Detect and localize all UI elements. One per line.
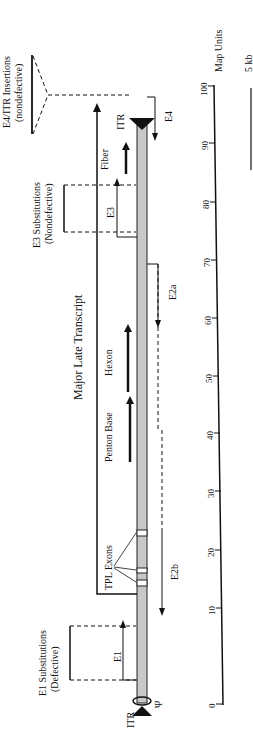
e2a-arrow [147,264,161,430]
e4-insertion-subtitle: (nondefective) [13,64,25,122]
tpl-exon-2 [137,568,147,573]
tick-20: 20 [206,548,216,558]
itr-right-label: ITR [115,114,126,130]
major-late-transcript-arrow [93,103,137,594]
penton-base-label: Penton Base [103,412,114,462]
e1-label: E1 [112,651,123,662]
map-units-label: Map Units [213,29,224,72]
genome-bar [137,125,147,703]
itr-right-icon [129,118,155,130]
e1-arrow [120,620,137,680]
e3-substitution-bracket [64,185,136,232]
hexon-label: Hexon [103,349,114,376]
e2b-label: E2b [169,564,180,580]
major-late-transcript-label: Major Late Transcript [71,294,85,400]
tick-40: 40 [205,431,215,441]
tpl-exon-1 [137,580,147,586]
fiber-label: Fiber [99,148,110,170]
e2b-arrow [159,430,165,616]
fiber-arrow [122,142,130,174]
adenovirus-genome-map: ITR ITR Ψ E1 Substitutions (Defective) E… [0,0,253,736]
e1-substitution-bracket [70,626,136,680]
e3-arrow [114,178,137,237]
tpl-exon-connectors [114,533,136,582]
itr-left-label: ITR [125,712,136,728]
e3-label: E3 [105,207,116,218]
tick-30: 30 [206,489,216,499]
scale-bar-label: 5 kb [243,55,253,73]
tick-90: 90 [200,141,210,151]
tpl-exons-label: TPL Exons [103,545,114,590]
tick-60: 60 [203,316,213,326]
psi-label: Ψ [153,700,164,708]
tick-70: 70 [202,258,212,268]
penton-base-arrow [126,396,134,462]
tick-80: 80 [201,200,211,210]
e1-substitution-subtitle: (Defective) [49,646,61,692]
tpl-exon-3 [137,530,147,536]
tick-10: 10 [207,606,217,616]
e4-insertion-title: E4/ITR Insertions [1,56,12,128]
e3-substitution-title: E3 Substitutions [31,182,42,248]
e2a-label: E2a [167,284,178,300]
tick-50: 50 [204,374,214,384]
tick-0: 0 [207,703,217,708]
e3-substitution-subtitle: (Nondefective) [43,183,55,244]
hexon-arrow [124,324,132,392]
tick-100: 100 [199,82,209,96]
map-units-axis: 100 90 80 70 60 50 40 30 20 10 0 [199,82,223,708]
e4-label: E4 [163,111,174,122]
e1-substitution-title: E1 Substitutions [37,630,48,696]
